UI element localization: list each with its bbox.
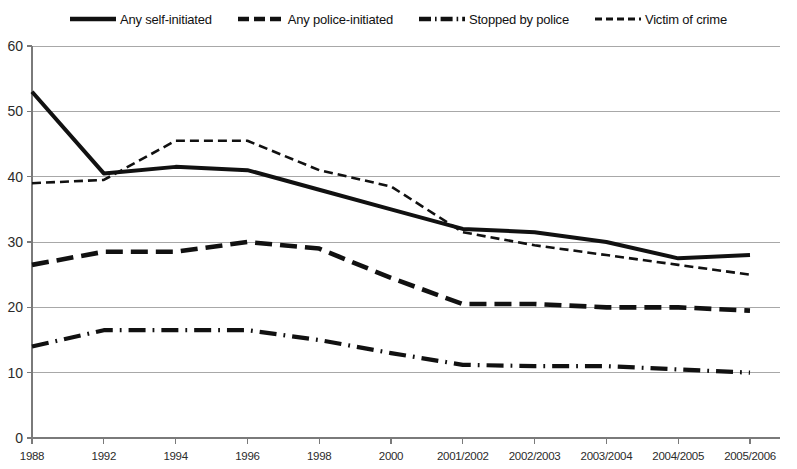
x-tick-label: 1998 xyxy=(307,450,331,462)
x-tick-label: 2002/2003 xyxy=(509,450,561,462)
x-tick-label: 1996 xyxy=(235,450,259,462)
x-tick-label: 2005/2006 xyxy=(724,450,776,462)
chart-x-axis: 1988199219941996199820002001/20022002/20… xyxy=(20,438,776,462)
x-tick-label: 2004/2005 xyxy=(652,450,704,462)
x-tick-label: 2000 xyxy=(379,450,403,462)
series-line-any-self-initiated xyxy=(32,92,750,259)
x-tick-label: 2001/2002 xyxy=(437,450,489,462)
y-tick-label: 20 xyxy=(7,299,23,315)
series-line-any-police-initiated xyxy=(32,242,750,311)
y-tick-label: 0 xyxy=(15,430,23,446)
x-tick-label: 1994 xyxy=(163,450,188,462)
x-tick-label: 1992 xyxy=(92,450,116,462)
chart-gridlines xyxy=(32,46,780,373)
x-tick-label: 2003/2004 xyxy=(581,450,634,462)
chart-plot-area: 0102030405060 19881992199419961998200020… xyxy=(0,0,797,469)
y-tick-label: 60 xyxy=(7,38,23,54)
x-tick-label: 1988 xyxy=(20,450,44,462)
chart-container: Any self-initiated Any police-initiated … xyxy=(0,0,797,469)
y-tick-label: 10 xyxy=(7,365,23,381)
y-tick-label: 30 xyxy=(7,234,23,250)
y-tick-label: 40 xyxy=(7,169,23,185)
chart-series-layer xyxy=(32,92,750,373)
series-line-stopped-by-police xyxy=(32,330,750,372)
chart-y-axis: 0102030405060 xyxy=(7,38,32,446)
y-tick-label: 50 xyxy=(7,103,23,119)
